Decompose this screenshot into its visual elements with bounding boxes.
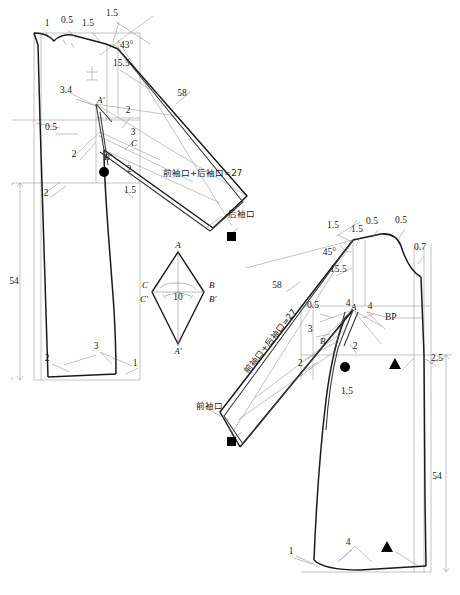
measurement-label: 1.5 xyxy=(106,8,118,18)
point-label: A xyxy=(174,240,181,250)
measurement-label: 0.5 xyxy=(307,300,319,310)
measurement-label: 1 xyxy=(289,546,294,556)
front-piece-group xyxy=(206,220,452,572)
front-point-labels: A B BP xyxy=(320,302,397,346)
point-label: B′ xyxy=(209,294,217,304)
measurement-label: 0.5 xyxy=(366,216,378,226)
measurement-label: 1.5 xyxy=(124,185,136,195)
marker-triangle-waist xyxy=(389,358,401,369)
measurement-label: 2.5 xyxy=(431,353,443,363)
measurement-label: 2 xyxy=(45,353,50,363)
measurement-label: 2 xyxy=(72,149,77,159)
measurement-label: 1.5 xyxy=(82,18,94,28)
point-label: B xyxy=(320,336,326,346)
measurement-label: 3 xyxy=(308,324,313,334)
marker-square-front xyxy=(227,437,236,446)
front-cuff-annotation: 前袖口 xyxy=(196,401,223,411)
point-label: C xyxy=(142,280,149,290)
measurement-label: 0.5 xyxy=(395,215,407,225)
angle-label: 43° xyxy=(120,40,134,50)
measurement-label: 1.5 xyxy=(327,220,339,230)
measurement-label: 2 xyxy=(298,358,303,368)
front-leader-lines xyxy=(206,229,436,564)
marker-dot-back xyxy=(99,167,109,177)
measurement-label: 2 xyxy=(126,105,131,115)
measurement-label: 0.5 xyxy=(45,122,57,132)
point-label: A′ xyxy=(96,95,105,105)
gusset-labels: 10 A A′ B B′ C C′ xyxy=(140,240,217,356)
measurement-label: 3 xyxy=(131,127,136,137)
measurement-label: 4 xyxy=(368,301,373,311)
measurement-label: 15.5 xyxy=(330,264,347,274)
marker-triangle-hem xyxy=(381,541,393,552)
measurement-label: 0.5 xyxy=(61,15,73,25)
measurement-label: 4 xyxy=(346,298,351,308)
back-measurement-labels: 1 0.5 1.5 1.5 43° 15.5 58 3.4 2 3 2 2 1.… xyxy=(9,8,187,368)
measurement-label: 58 xyxy=(177,88,187,98)
point-label: A xyxy=(350,302,357,312)
measurement-label: 1.5 xyxy=(341,386,353,396)
measurement-label: 54 xyxy=(9,276,19,286)
back-cuff-annotation: 后袖口 xyxy=(228,209,255,219)
bust-point-label: BP xyxy=(385,312,397,322)
measurement-label: 1 xyxy=(45,18,50,28)
front-outline xyxy=(220,234,426,570)
measurement-label: 1 xyxy=(133,358,138,368)
front-measurement-labels: 1.5 1.5 0.5 0.5 0.7 45° 15.5 58 0.5 4 4 … xyxy=(272,215,443,556)
measurement-label: 1.5 xyxy=(351,224,363,234)
point-label: C xyxy=(131,138,138,148)
gusset-width-label: 10 xyxy=(173,292,183,302)
measurement-label: 3 xyxy=(94,341,99,351)
point-label: B xyxy=(209,280,215,290)
point-label: A′ xyxy=(173,346,182,356)
back-piece-group xyxy=(12,16,247,380)
measurement-label: 3.4 xyxy=(60,85,72,95)
angle-label: 45° xyxy=(323,247,337,257)
pattern-diagram: 1 0.5 1.5 1.5 43° 15.5 58 3.4 2 3 2 2 1.… xyxy=(0,0,460,595)
measurement-label: 15.5 xyxy=(113,58,130,68)
marker-square-back xyxy=(227,232,236,241)
measurement-label: 0.7 xyxy=(414,242,426,252)
measurement-label: 4 xyxy=(346,537,351,547)
measurement-label: 54 xyxy=(432,471,442,481)
marker-dot-front xyxy=(340,362,350,372)
measurement-label: 2 xyxy=(353,341,358,351)
measurement-label: 2 xyxy=(127,164,132,174)
back-construction-lines xyxy=(12,16,247,380)
measurement-label: 58 xyxy=(272,280,282,290)
back-annotations: 前袖口+后袖口=27 后袖口 xyxy=(163,168,255,219)
point-label: B′ xyxy=(104,152,112,162)
point-label: C′ xyxy=(140,294,149,304)
measurement-label: 2 xyxy=(44,188,49,198)
cuff-sum-annotation: 前袖口+后袖口=27 xyxy=(163,168,242,178)
